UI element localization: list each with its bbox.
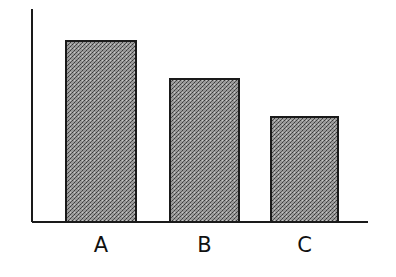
bars-group: [66, 41, 338, 222]
bar-b: [170, 79, 239, 222]
category-label-c: C: [297, 233, 312, 257]
bar-chart: ABC: [0, 0, 396, 277]
bar-c: [271, 117, 338, 222]
category-label-b: B: [197, 233, 211, 257]
category-labels: ABC: [94, 233, 312, 257]
bar-a: [66, 41, 136, 222]
category-label-a: A: [94, 233, 109, 257]
